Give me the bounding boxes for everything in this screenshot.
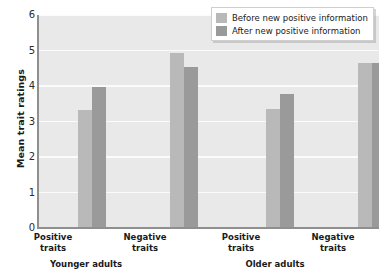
- bar-after-0: [92, 87, 106, 228]
- bar-before-1: [170, 53, 184, 228]
- x-tick-label-3-line2: traits: [298, 243, 368, 254]
- y-axis-line: [37, 15, 39, 229]
- gridline-5: [39, 50, 379, 52]
- y-tick-2: 2: [21, 152, 35, 162]
- x-tick-label-0-line1: Positive: [34, 232, 72, 242]
- legend-swatch-before-icon: [216, 13, 227, 23]
- bar-chart-figure: Mean trait ratings 0123456 Before new po…: [0, 0, 386, 274]
- x-tick-label-3: Negative traits: [298, 232, 368, 253]
- legend-item-after: After new positive information: [216, 24, 368, 37]
- bar-before-3: [358, 63, 372, 228]
- x-tick-label-2: Positive traits: [206, 232, 276, 253]
- gridline-4: [39, 85, 379, 87]
- bar-before-0: [78, 110, 92, 228]
- bar-after-1: [184, 67, 198, 228]
- y-tick-6: 6: [21, 10, 35, 20]
- plot-area: [39, 15, 379, 228]
- y-tick-3: 3: [21, 117, 35, 127]
- y-tick-1: 1: [21, 188, 35, 198]
- x-tick-label-3-line1: Negative: [312, 232, 355, 242]
- x-tick-label-1-line1: Negative: [124, 232, 167, 242]
- x-tick-label-0-line2: traits: [18, 243, 88, 254]
- x-axis-line: [37, 227, 379, 229]
- y-tick-5: 5: [21, 46, 35, 56]
- legend-label-after: After new positive information: [232, 26, 360, 36]
- group-label-older-adults: Older adults: [215, 259, 335, 269]
- bar-before-2: [266, 109, 280, 228]
- x-tick-label-0: Positive traits: [18, 232, 88, 253]
- bar-after-3: [372, 63, 379, 228]
- legend-label-before: Before new positive information: [232, 13, 368, 23]
- legend-item-before: Before new positive information: [216, 11, 368, 24]
- chart-legend: Before new positive information After ne…: [211, 7, 374, 41]
- x-tick-label-2-line1: Positive: [222, 232, 260, 242]
- y-tick-4: 4: [21, 81, 35, 91]
- x-tick-label-1: Negative traits: [110, 232, 180, 253]
- x-tick-label-1-line2: traits: [110, 243, 180, 254]
- plot-inner: [39, 15, 379, 228]
- x-tick-label-2-line2: traits: [206, 243, 276, 254]
- legend-swatch-after-icon: [216, 26, 227, 36]
- bar-after-2: [280, 94, 294, 228]
- group-label-younger-adults: Younger adults: [26, 259, 146, 269]
